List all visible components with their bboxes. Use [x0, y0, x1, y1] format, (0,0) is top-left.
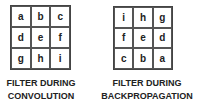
- filter-cell: a: [153, 48, 172, 69]
- filter-cell: b: [31, 6, 51, 27]
- filter-cell: f: [114, 28, 133, 49]
- filter-cell: e: [31, 27, 51, 48]
- convolution-filter-grid: a b c d e f g h i: [10, 5, 71, 70]
- filter-cell: a: [11, 6, 31, 27]
- filter-cell: c: [50, 6, 70, 27]
- backpropagation-filter-grid: i h g f e d c b a: [113, 6, 173, 70]
- filter-cell: i: [50, 48, 70, 69]
- filter-cell: f: [50, 27, 70, 48]
- filter-cell: b: [133, 48, 152, 69]
- caption-line: FILTER DURING: [97, 77, 197, 90]
- filter-cell: h: [133, 7, 152, 28]
- caption-line: FILTER DURING: [0, 77, 82, 90]
- filter-cell: e: [133, 28, 152, 49]
- filter-cell: g: [153, 7, 172, 28]
- backpropagation-filter-caption: FILTER DURING BACKPROPAGATION: [97, 77, 197, 103]
- caption-line: BACKPROPAGATION: [97, 90, 197, 103]
- filter-cell: i: [114, 7, 133, 28]
- convolution-filter-caption: FILTER DURING CONVOLUTION: [0, 77, 82, 103]
- filter-cell: c: [114, 48, 133, 69]
- filter-cell: h: [31, 48, 51, 69]
- filter-cell: d: [153, 28, 172, 49]
- filter-cell: d: [11, 27, 31, 48]
- filter-cell: g: [11, 48, 31, 69]
- caption-line: CONVOLUTION: [0, 90, 82, 103]
